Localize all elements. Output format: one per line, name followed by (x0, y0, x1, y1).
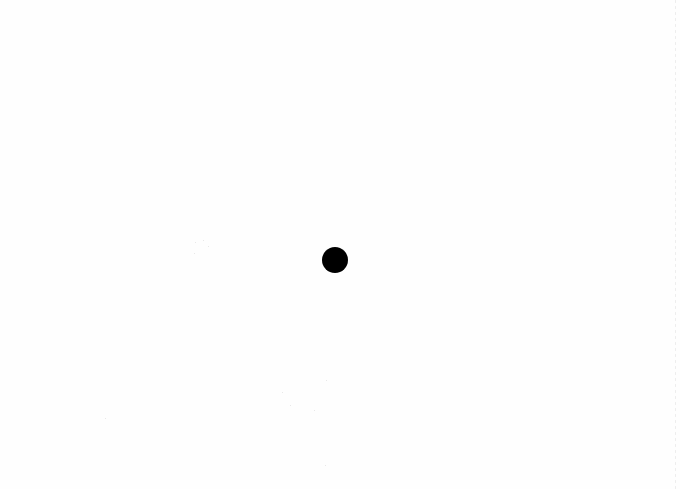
scan-speck (325, 465, 326, 466)
scan-speck (105, 418, 106, 419)
black-dot-marker (322, 247, 348, 273)
page-edge-line (675, 0, 676, 489)
scan-speck (282, 392, 283, 393)
scan-speck (326, 380, 327, 381)
scanned-page (0, 0, 680, 489)
scan-speck (290, 405, 291, 406)
scan-speck (194, 253, 195, 254)
scan-speck (314, 410, 315, 411)
scan-speck (208, 246, 209, 247)
scan-speck (203, 240, 204, 241)
scan-speck (195, 242, 196, 243)
